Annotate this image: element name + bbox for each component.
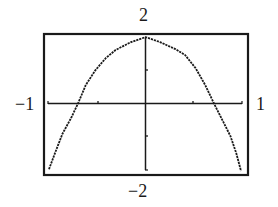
ymin-label: −2: [128, 182, 147, 200]
graph-svg: [0, 0, 278, 207]
xmax-label: 1: [256, 95, 265, 113]
ymax-label: 2: [139, 6, 148, 24]
xmin-label: −1: [15, 95, 34, 113]
